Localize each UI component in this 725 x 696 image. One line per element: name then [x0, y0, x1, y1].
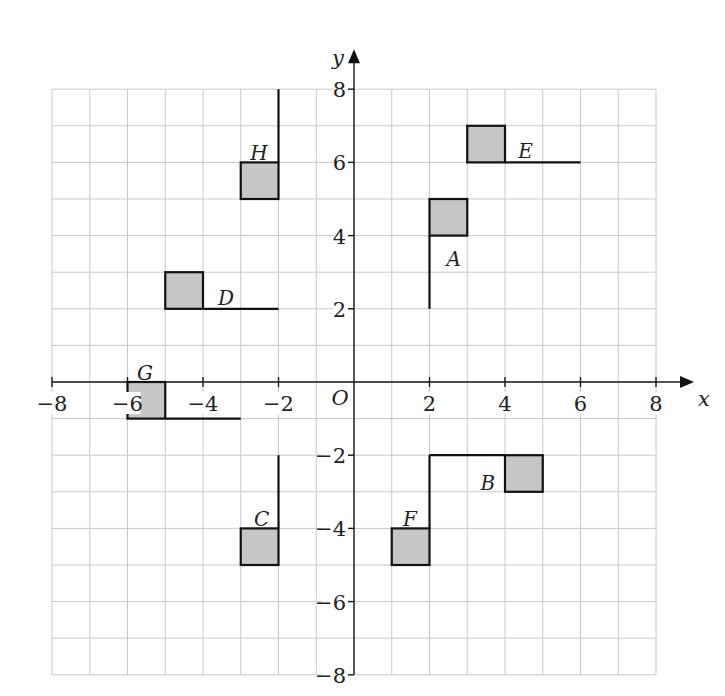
y-tick-label: −6: [315, 591, 346, 615]
flag-label-f: F: [402, 507, 418, 531]
x-tick-label: −2: [263, 392, 294, 416]
x-tick-label: 8: [649, 392, 662, 416]
x-tick-label: −4: [188, 392, 219, 416]
labels: −8−6−4−22468−8−6−4−22468xyOABCDEFGH: [37, 46, 710, 688]
origin-label: O: [331, 386, 348, 410]
flag-square: [392, 528, 430, 565]
flag-label-e: E: [517, 139, 533, 163]
flag-label-c: C: [254, 507, 269, 531]
y-tick-label: 2: [333, 298, 346, 322]
x-axis-label: x: [698, 387, 710, 411]
y-tick-label: 8: [333, 78, 346, 102]
x-tick-label: −6: [112, 392, 143, 416]
flag-label-a: A: [444, 247, 460, 271]
flag-label-g: G: [137, 361, 153, 385]
y-axis-arrow-icon: [348, 49, 360, 63]
x-tick-label: 6: [574, 392, 587, 416]
flag-square: [241, 528, 279, 565]
flag-label-b: B: [479, 471, 495, 495]
y-tick-label: −8: [315, 664, 346, 688]
y-tick-label: 6: [333, 151, 346, 175]
coordinate-grid-diagram: −8−6−4−22468−8−6−4−22468xyOABCDEFGH: [0, 0, 725, 696]
flag-label-h: H: [249, 141, 268, 165]
x-tick-label: 4: [498, 392, 511, 416]
y-tick-label: −2: [315, 444, 346, 468]
flag-shape-g: [128, 382, 241, 419]
flag-square: [165, 272, 203, 309]
y-tick-label: 4: [333, 225, 346, 249]
flag-square: [241, 162, 279, 199]
x-axis-arrow-icon: [680, 376, 694, 388]
flag-square: [505, 455, 543, 492]
flag-label-d: D: [217, 286, 234, 310]
flag-square: [430, 199, 468, 236]
y-axis-label: y: [331, 46, 345, 70]
flag-square: [467, 126, 505, 163]
x-tick-label: 2: [423, 392, 436, 416]
y-tick-label: −4: [315, 517, 346, 541]
x-tick-label: −8: [37, 392, 68, 416]
